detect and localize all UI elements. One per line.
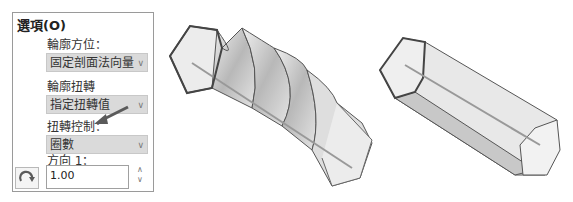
straight-prism-figure <box>375 30 570 180</box>
chevron-down-icon[interactable]: ∨ <box>135 175 145 185</box>
twist-control-value: 圈數 <box>50 138 74 152</box>
annotation-arrow-icon <box>92 104 132 126</box>
chevron-up-icon[interactable]: ∧ <box>135 165 145 175</box>
chevron-down-icon: ∨ <box>137 54 144 72</box>
profile-orientation-value: 固定剖面法向量 <box>50 56 134 70</box>
spin-buttons[interactable]: ∧ ∨ <box>135 165 145 189</box>
direction-value-input[interactable]: 1.00 <box>46 165 129 189</box>
reverse-direction-button[interactable] <box>15 167 39 189</box>
options-panel: 選項(O) 輪廓方位： 固定剖面法向量 ∨ 輪廓扭轉 指定扭轉值 ∨ 扭轉控制：… <box>12 12 154 192</box>
profile-orientation-dropdown[interactable]: 固定剖面法向量 ∨ <box>46 53 148 72</box>
chevron-down-icon: ∨ <box>137 96 144 114</box>
reverse-direction-icon <box>16 168 38 188</box>
panel-title[interactable]: 選項(O) <box>17 15 66 34</box>
chevron-down-icon: ∨ <box>137 136 144 154</box>
profile-twist-label: 輪廓扭轉 <box>47 77 95 94</box>
twisted-sweep-figure <box>162 18 382 188</box>
profile-orientation-label: 輪廓方位： <box>47 35 107 52</box>
